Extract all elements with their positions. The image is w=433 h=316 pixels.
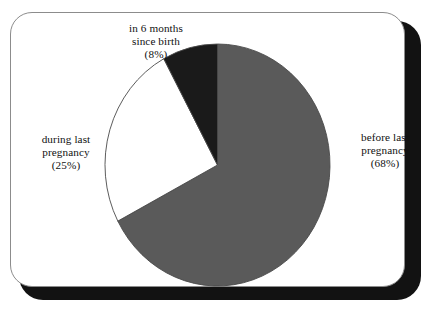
slice-label-line-2: pregnancy	[337, 144, 433, 157]
slice-label-in-6-months-since-birth: in 6 months since birth (8%)	[88, 22, 224, 62]
slice-label-value: (8%)	[88, 48, 224, 61]
slice-label-before-last-pregnancy: before last pregnancy (68%)	[337, 131, 433, 171]
slice-label-value: (68%)	[337, 157, 433, 170]
slice-label-line-1: before last	[337, 131, 433, 144]
slice-label-line-1: in 6 months	[88, 22, 224, 35]
slice-label-value: (25%)	[10, 159, 122, 172]
slice-label-line-1: during last	[10, 133, 122, 146]
pie-chart-figure: in 6 months since birth (8%) during last…	[0, 0, 433, 316]
slice-label-line-2: pregnancy	[10, 146, 122, 159]
slice-label-line-2: since birth	[88, 35, 224, 48]
slice-label-during-last-pregnancy: during last pregnancy (25%)	[10, 133, 122, 173]
